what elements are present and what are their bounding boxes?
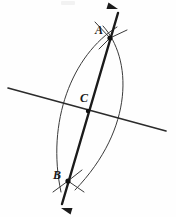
arrowhead-bottom (61, 208, 73, 215)
point-marker-a (107, 35, 112, 40)
bisector-line-segment (62, 13, 118, 204)
point-label-c: C (80, 91, 89, 105)
point-marker-c (86, 109, 90, 113)
construction-diagram: A C B (0, 0, 176, 217)
arrowhead-top (106, 3, 118, 10)
point-label-a: A (94, 23, 103, 37)
geometry-figure-canvas: A C B (0, 0, 176, 217)
paper-artifact (61, 1, 75, 5)
point-label-b: B (52, 168, 61, 182)
point-marker-b (65, 178, 70, 183)
